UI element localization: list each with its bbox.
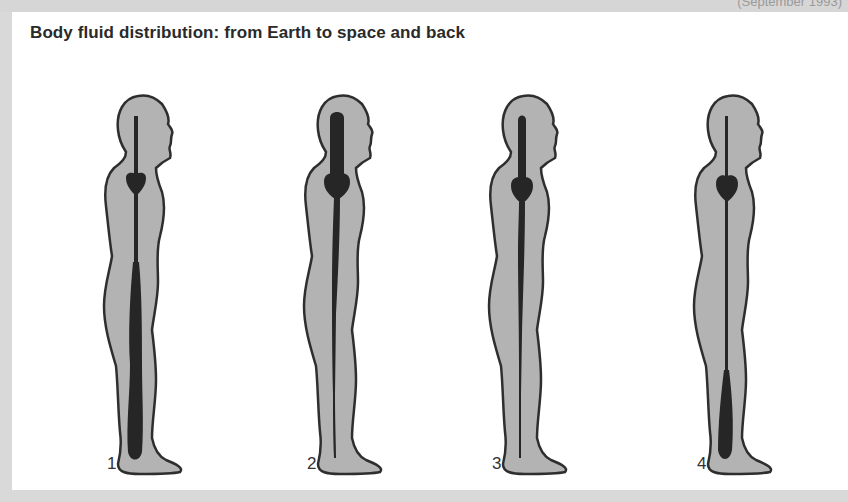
body-silhouette-icon bbox=[485, 94, 615, 478]
figure-4: 4 bbox=[690, 94, 820, 478]
figure-label: 1 bbox=[107, 454, 116, 474]
body-silhouette-icon bbox=[300, 94, 430, 478]
top-frame-strip: (September 1993) bbox=[0, 0, 848, 12]
figure-label: 3 bbox=[492, 454, 501, 474]
figure-label: 4 bbox=[697, 454, 706, 474]
diagram-title: Body fluid distribution: from Earth to s… bbox=[30, 23, 465, 43]
figure-label: 2 bbox=[307, 454, 316, 474]
body-silhouette-icon bbox=[690, 94, 820, 478]
figure-1: 1 bbox=[100, 94, 230, 478]
source-note: (September 1993) bbox=[737, 0, 842, 9]
bottom-frame-strip bbox=[0, 490, 848, 502]
figure-3: 3 bbox=[485, 94, 615, 478]
body-silhouette-icon bbox=[100, 94, 230, 478]
figure-2: 2 bbox=[300, 94, 430, 478]
